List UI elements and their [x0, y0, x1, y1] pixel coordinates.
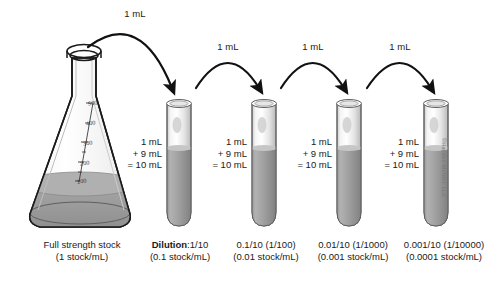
tube-4-caption-line2: (0.0001 stock/mL)	[394, 251, 494, 263]
arrow-4	[367, 63, 431, 88]
tube-1-math-line1: 1 mL	[112, 136, 162, 148]
tube-1-caption: Dilution:1/10 (0.1 stock/mL)	[138, 239, 222, 263]
flask-caption-line1: Full strength stock	[16, 239, 148, 251]
tube-3-math-line3: = 10 mL	[282, 159, 332, 171]
tube-3-caption: 0.01/10 (1/1000) (0.001 stock/mL)	[307, 239, 399, 263]
flask-graduation-100: 100	[76, 175, 87, 188]
tube-2-caption-line2: (0.01 stock/mL)	[222, 251, 310, 263]
tube-2-math-line1: 1 mL	[197, 136, 247, 148]
transfer-label-3: 1 mL	[288, 41, 338, 53]
tube-4-caption: 0.001/10 (1/10000) (0.0001 stock/mL)	[394, 239, 494, 263]
test-tube-1-graphic	[166, 100, 192, 228]
arrow-2	[196, 63, 259, 88]
tube-3-caption-rest: 0.01/10 (1/1000)	[318, 239, 388, 250]
tube-1-caption-bold: Dilution	[152, 239, 187, 250]
test-tube-3-graphic	[336, 100, 362, 228]
tube-2-math-line3: = 10 mL	[197, 159, 247, 171]
tube-3-math-line2: + 9 mL	[282, 148, 332, 160]
test-tube-2-graphic	[251, 100, 277, 228]
tube-1-caption-line1: Dilution:1/10	[138, 239, 222, 251]
tube-1-math-line3: = 10 mL	[112, 159, 162, 171]
tube-4-caption-line1: 0.001/10 (1/10000)	[394, 239, 494, 251]
tube-2-math-line2: + 9 mL	[197, 148, 247, 160]
arrow-1	[88, 34, 172, 88]
transfer-label-2: 1 mL	[203, 41, 253, 53]
flask-caption-line2: (1 stock/mL)	[16, 251, 148, 263]
tube-4-caption-rest: 0.001/10 (1/10000)	[404, 239, 484, 250]
tube-1-math: 1 mL + 9 mL = 10 mL	[112, 136, 162, 171]
tube-4-math-line2: + 9 mL	[369, 148, 419, 160]
flask-graduation-300: 300	[82, 137, 93, 150]
flask-graduation-200: 200	[79, 157, 90, 170]
tube-3-math-line1: 1 mL	[282, 136, 332, 148]
flask-caption: Full strength stock (1 stock/mL)	[16, 239, 148, 263]
copyright-notice: ©Hayden-McNeil, LLC	[441, 138, 447, 218]
transfer-label-4: 1 mL	[375, 41, 425, 53]
tube-3-caption-line1: 0.01/10 (1/1000)	[307, 239, 399, 251]
tube-4-math-line1: 1 mL	[369, 136, 419, 148]
tube-4-math-line3: = 10 mL	[369, 159, 419, 171]
transfer-label-1: 1 mL	[110, 8, 160, 20]
tube-2-caption-line1: 0.1/10 (1/100)	[222, 239, 310, 251]
tube-1-caption-line2: (0.1 stock/mL)	[138, 251, 222, 263]
flask-graduation-500: 500	[87, 97, 98, 110]
tube-1-caption-rest: :1/10	[187, 239, 208, 250]
tube-3-math: 1 mL + 9 mL = 10 mL	[282, 136, 332, 171]
tube-1-math-line2: + 9 mL	[112, 148, 162, 160]
flask-graduation-400: 400	[85, 117, 96, 130]
serial-dilution-figure: 1 mL 1 mL 1 mL 1 mL 500 400 300 200 100 …	[0, 0, 502, 281]
tube-3-caption-line2: (0.001 stock/mL)	[307, 251, 399, 263]
tube-2-caption: 0.1/10 (1/100) (0.01 stock/mL)	[222, 239, 310, 263]
tube-2-caption-rest: 0.1/10 (1/100)	[236, 239, 295, 250]
tube-2-math: 1 mL + 9 mL = 10 mL	[197, 136, 247, 171]
tube-4-math: 1 mL + 9 mL = 10 mL	[369, 136, 419, 171]
arrow-3	[281, 63, 344, 88]
